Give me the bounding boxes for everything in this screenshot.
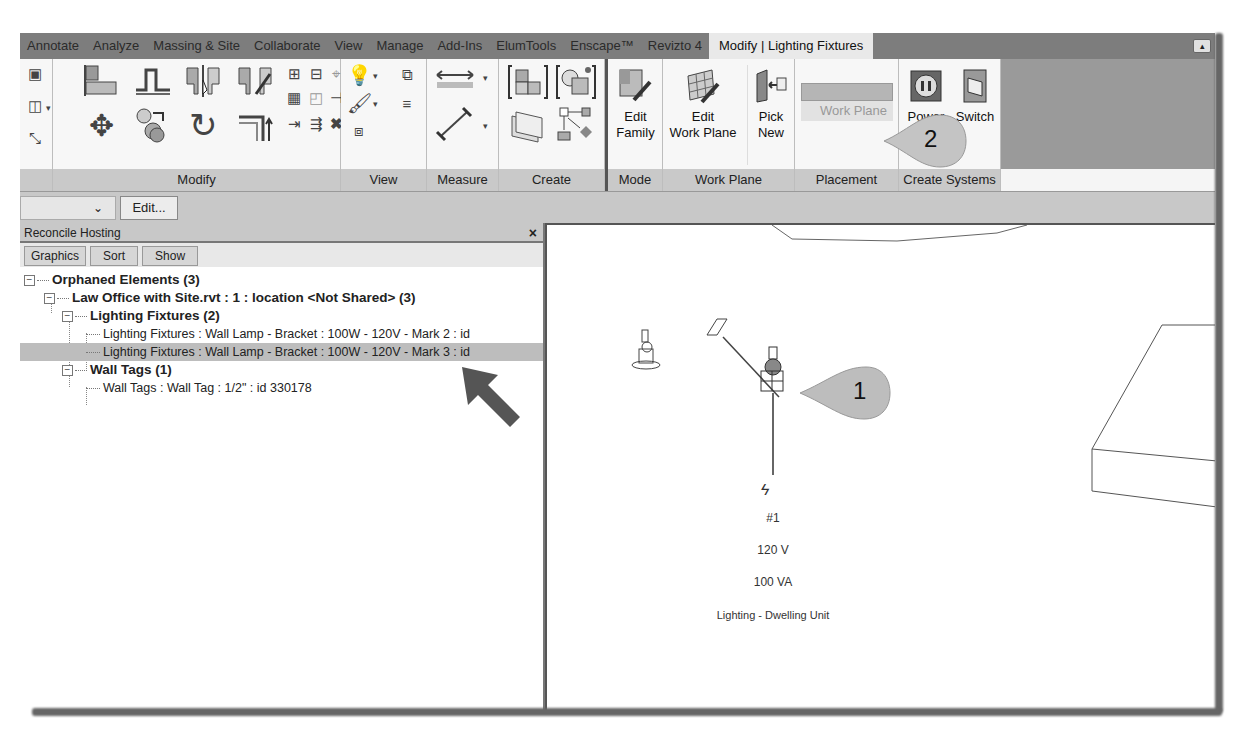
panel-title-mode: Mode (608, 169, 662, 191)
tab-enscape[interactable]: Enscape™ (563, 33, 641, 59)
match-properties-icon[interactable]: ⤡ (24, 127, 46, 149)
create-parts-icon[interactable] (555, 63, 597, 101)
hide-element-icon[interactable]: ⧈ (347, 119, 371, 143)
scale-icon[interactable]: ◰ (307, 89, 325, 107)
sort-button[interactable]: Sort (90, 246, 138, 266)
graphics-button[interactable]: Graphics (24, 246, 86, 266)
pick-new-host-button[interactable]: Pick New (749, 63, 793, 141)
split-element-icon[interactable]: ⊞ (285, 65, 303, 83)
reconcile-hosting-toolbar: Graphics Sort Show (20, 243, 543, 267)
options-bar: ⌄ Edit... (20, 191, 1215, 223)
edit-work-plane-button[interactable]: Edit Work Plane (665, 63, 741, 141)
tab-collaborate[interactable]: Collaborate (247, 33, 328, 59)
reconcile-hosting-titlebar[interactable]: Reconcile Hosting × (20, 223, 543, 243)
align-icon[interactable] (81, 63, 121, 99)
panel-mode: Mode Edit Family (605, 59, 663, 191)
panel-work-plane: Work Plane Edit Work Plane Pick New (663, 59, 795, 191)
chevron-down-icon[interactable]: ▾ (483, 73, 488, 83)
close-icon[interactable]: × (529, 223, 537, 243)
panel-title-create: Create (499, 169, 604, 191)
panel-create: Create (499, 59, 605, 191)
create-assembly-icon[interactable] (507, 63, 549, 101)
chevron-down-icon[interactable]: ▾ (46, 103, 51, 113)
linework-icon[interactable]: ≡ (395, 91, 419, 115)
chevron-down-icon[interactable]: ▾ (373, 99, 378, 109)
tree-node-orphaned-elements[interactable]: −Orphaned Elements (3) (20, 271, 543, 289)
pick-new-host-icon (749, 63, 793, 109)
paint-brush-icon[interactable]: 🖌 (347, 91, 371, 115)
callout-1: 1 (798, 363, 893, 427)
tab-massing-site[interactable]: Massing & Site (146, 33, 247, 59)
collapse-icon[interactable]: − (62, 365, 73, 376)
offset-icon[interactable] (133, 63, 173, 99)
array-icon[interactable]: ▦ (285, 89, 303, 107)
revit-window: Annotate Analyze Massing & Site Collabor… (20, 33, 1215, 713)
panel-title: Reconcile Hosting (24, 226, 121, 240)
ribbon-tab-bar: Annotate Analyze Massing & Site Collabor… (20, 33, 1215, 59)
mirror-pick-axis-icon[interactable] (183, 63, 223, 99)
pointer-arrow-icon (458, 363, 538, 447)
override-graphics-icon[interactable]: ⧉ (395, 63, 419, 87)
selected-wall-lamp-symbol (761, 347, 783, 391)
collapse-icon[interactable]: − (62, 311, 73, 322)
tab-manage[interactable]: Manage (369, 33, 430, 59)
panel-modify: Modify ⊞ ⊟ ⌖ ✥ ↻ ▦ (53, 59, 341, 191)
panel-title-modify: Modify (53, 169, 340, 191)
copy-icon[interactable] (133, 105, 173, 145)
power-outlet-icon (901, 63, 951, 109)
drawing-canvas[interactable]: ϟ #1 120 V 100 VA Lighting - Dwelling Un… (545, 223, 1215, 713)
chevron-down-icon[interactable]: ▾ (373, 71, 378, 81)
tree-item-lighting-fixture-mark-2[interactable]: Lighting Fixtures : Wall Lamp - Bracket … (20, 325, 543, 343)
aligned-dimension-icon[interactable] (433, 105, 477, 143)
callout-2: 2 (882, 111, 972, 175)
mirror-draw-axis-icon[interactable] (235, 63, 275, 99)
panel-view: View 💡 ▾ ⧉ 🖌 ▾ ≡ ⧈ (341, 59, 427, 191)
edit-family-button[interactable]: Edit Family (608, 63, 663, 141)
measure-between-references-icon[interactable] (433, 65, 477, 93)
paste-icon[interactable]: ▣ (24, 63, 46, 85)
placement-option-disabled (801, 83, 893, 101)
light-switch-icon (951, 63, 999, 109)
tree-node-lighting-fixtures[interactable]: −Lighting Fixtures (2) (20, 307, 543, 325)
join-geometry-icon[interactable]: ◫ (24, 95, 46, 117)
edit-work-plane-icon (665, 63, 741, 109)
tree-item-lighting-fixture-mark-3[interactable]: Lighting Fixtures : Wall Lamp - Bracket … (20, 343, 543, 361)
tab-modify-lighting-fixtures[interactable]: Modify | Lighting Fixtures (709, 33, 873, 59)
collapse-icon[interactable]: − (24, 275, 35, 286)
reconcile-hosting-panel: Reconcile Hosting × Graphics Sort Show −… (20, 223, 545, 713)
trim-extend-multiple-icon[interactable]: ⇶ (307, 115, 325, 133)
collapse-icon[interactable]: − (44, 293, 55, 304)
create-similar-icon[interactable] (555, 105, 597, 145)
move-icon[interactable]: ✥ (81, 105, 121, 145)
place-on-work-plane-option: Work Plane (801, 101, 893, 121)
lightbulb-icon[interactable]: 💡 (347, 63, 371, 87)
panel-title-work-plane: Work Plane (663, 169, 794, 191)
panel-title-view: View (341, 169, 426, 191)
wall-lamp-symbol (632, 330, 660, 369)
tree-node-linked-file[interactable]: −Law Office with Site.rvt : 1 : location… (20, 289, 543, 307)
edit-type-button[interactable]: Edit... (120, 196, 178, 220)
trim-extend-single-icon[interactable]: ⇥ (285, 115, 303, 133)
circuit-number: #1 (673, 511, 873, 525)
panel-title-measure: Measure (427, 169, 498, 191)
load-classification: Lighting - Dwelling Unit (673, 609, 873, 621)
tab-analyze[interactable]: Analyze (86, 33, 146, 59)
tab-add-ins[interactable]: Add-Ins (430, 33, 489, 59)
rotate-icon[interactable]: ↻ (183, 105, 223, 145)
tab-revizto[interactable]: Revizto 4 (641, 33, 709, 59)
tab-view[interactable]: View (328, 33, 370, 59)
trim-extend-corner-icon[interactable] (235, 105, 275, 145)
edit-family-icon (608, 63, 663, 109)
circuit-load: 100 VA (673, 575, 873, 589)
ribbon-minimize-icon[interactable]: ▴ (1193, 39, 1211, 53)
chevron-down-icon[interactable]: ▾ (483, 121, 488, 131)
torn-edge-bottom (32, 708, 1222, 716)
tab-annotate[interactable]: Annotate (20, 33, 86, 59)
chevron-down-icon: ⌄ (93, 201, 103, 215)
create-group-icon[interactable] (507, 107, 549, 145)
tab-elumtools[interactable]: ElumTools (489, 33, 563, 59)
split-with-gap-icon[interactable]: ⊟ (307, 65, 325, 83)
panel-measure: Measure ▾ ▾ (427, 59, 499, 191)
show-button[interactable]: Show (142, 246, 198, 266)
type-selector-dropdown[interactable]: ⌄ (20, 196, 116, 220)
